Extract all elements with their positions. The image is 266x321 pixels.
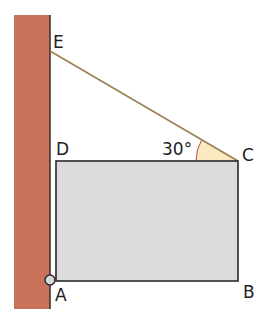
label-a: A (55, 285, 67, 305)
label-b: B (243, 282, 255, 302)
label-c: C (242, 145, 254, 165)
diagram-canvas: E D C B A 30° (0, 0, 266, 321)
label-d: D (56, 139, 69, 159)
plate-abcd (56, 161, 238, 281)
cable-ec (50, 51, 238, 161)
hinge-a (45, 275, 55, 285)
wall (14, 15, 50, 309)
angle-label: 30° (162, 139, 192, 159)
label-e: E (53, 32, 64, 52)
